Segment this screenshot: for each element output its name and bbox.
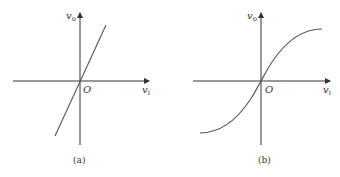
origin-label: O <box>83 84 91 95</box>
panel-a: vo O vi (a) <box>13 10 151 165</box>
panel-caption: (a) <box>73 155 85 165</box>
y-axis-label: vo <box>66 10 76 23</box>
x-axis-label: vi <box>142 84 151 97</box>
origin-label: O <box>265 84 273 95</box>
y-axis-label: vo <box>247 10 257 23</box>
x-axis-label: vi <box>323 84 332 97</box>
transfer-characteristic-diagram: vo O vi (a) vo O vi (b) <box>0 0 340 177</box>
panel-b: vo O vi (b) <box>193 10 332 165</box>
panel-caption: (b) <box>258 155 271 165</box>
